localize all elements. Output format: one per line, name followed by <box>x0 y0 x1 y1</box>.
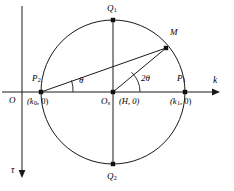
coord-label-p2-main: (k <box>27 96 34 106</box>
point-label-q1: Q1 <box>107 4 117 14</box>
point-label-q1-text: Q <box>107 3 114 13</box>
point-label-os: Os <box>101 97 110 107</box>
k-axis-label-text: k <box>213 75 217 85</box>
tau-axis-arrowhead <box>19 170 26 178</box>
figure-canvas <box>0 0 234 191</box>
point-label-p2-text: P <box>32 73 38 83</box>
point-dot-os <box>111 90 115 94</box>
angle-arc-theta <box>72 80 74 92</box>
chord-p2-m <box>41 48 166 92</box>
coord-label-p2: (k0, 0) <box>27 97 48 107</box>
tau-axis-label-text: τ <box>11 165 14 175</box>
point-label-m: M <box>170 28 178 37</box>
point-label-p1-text: P <box>177 73 183 83</box>
coord-label-p2-tail: , 0) <box>37 96 48 106</box>
point-label-q2: Q2 <box>107 172 117 182</box>
angle-label-two-theta: 2θ <box>141 74 150 83</box>
point-label-p1: P1 <box>177 74 186 84</box>
coord-label-p1: (k1, 0) <box>170 97 191 107</box>
point-label-p2-subscript: 2 <box>38 76 41 83</box>
angle-label-two-theta-text: 2θ <box>141 73 150 83</box>
coord-label-p1-tail: , 0) <box>180 96 191 106</box>
origin-label: O <box>9 96 16 105</box>
point-label-os-text: O <box>101 96 108 106</box>
tau-axis-label: τ <box>11 166 14 176</box>
geometry-diagram: O P2 (k0, 0) Os (H, 0) P1 (k1, 0) Q1 Q2 … <box>0 0 234 191</box>
point-dot-m <box>164 46 168 50</box>
point-label-m-text: M <box>170 27 178 37</box>
k-axis-label: k <box>213 76 217 86</box>
point-dot-q2 <box>111 162 115 166</box>
origin-label-text: O <box>9 95 16 105</box>
point-label-p1-subscript: 1 <box>183 76 186 83</box>
point-label-p2: P2 <box>32 74 41 84</box>
point-dot-q1 <box>111 18 115 22</box>
coord-label-p1-main: (k <box>170 96 177 106</box>
coord-label-os-text: (H, 0) <box>119 96 139 106</box>
angle-label-theta-text: θ <box>79 75 83 85</box>
point-dot-p1 <box>183 90 187 94</box>
point-label-q2-text: Q <box>107 171 114 181</box>
point-label-q2-subscript: 2 <box>114 174 117 181</box>
point-label-os-subscript: s <box>108 99 111 106</box>
point-label-q1-subscript: 1 <box>114 6 117 13</box>
k-axis-arrowhead <box>212 89 220 96</box>
angle-label-theta: θ <box>79 76 83 85</box>
coord-label-os: (H, 0) <box>119 97 139 106</box>
point-dot-p2 <box>39 90 43 94</box>
